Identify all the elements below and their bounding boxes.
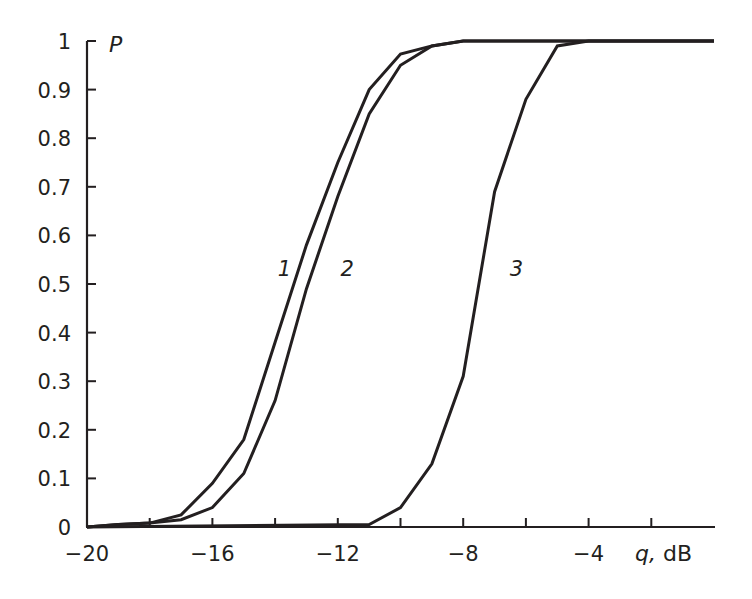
curve-label-1: 1 xyxy=(278,257,291,281)
curve-1 xyxy=(87,41,714,527)
curve-label-2: 2 xyxy=(341,257,354,281)
chart: 00.10.20.30.40.50.60.70.80.91 −20−16−12−… xyxy=(0,0,752,599)
y-tick-label: 0.6 xyxy=(38,224,71,248)
x-tick-label: −12 xyxy=(316,542,360,566)
x-axis-variable: q, xyxy=(635,541,656,566)
y-tick-label: 0.9 xyxy=(38,79,71,103)
x-axis-title: q, dB xyxy=(635,541,692,566)
x-tick-label: −20 xyxy=(65,542,109,566)
x-axis-unit: dB xyxy=(656,541,692,566)
axes: 00.10.20.30.40.50.60.70.80.91 −20−16−12−… xyxy=(38,30,715,566)
curve-3 xyxy=(87,41,714,527)
y-tick-label: 1 xyxy=(58,30,71,54)
x-tick-label: −16 xyxy=(190,542,234,566)
curve-label-3: 3 xyxy=(510,257,523,281)
curve-2 xyxy=(87,41,714,527)
y-tick-label: 0.7 xyxy=(38,176,71,200)
y-tick-label: 0.2 xyxy=(38,419,71,443)
y-tick-label: 0.8 xyxy=(38,127,71,151)
x-tick-label: −4 xyxy=(573,542,604,566)
y-axis-title: P xyxy=(109,32,123,57)
y-tick-label: 0.4 xyxy=(38,322,71,346)
series-group xyxy=(87,41,714,527)
y-tick-label: 0.3 xyxy=(38,370,71,394)
x-tick-label: −8 xyxy=(448,542,479,566)
y-tick-label: 0 xyxy=(58,516,71,540)
y-tick-label: 0.5 xyxy=(38,273,71,297)
y-tick-label: 0.1 xyxy=(38,467,71,491)
